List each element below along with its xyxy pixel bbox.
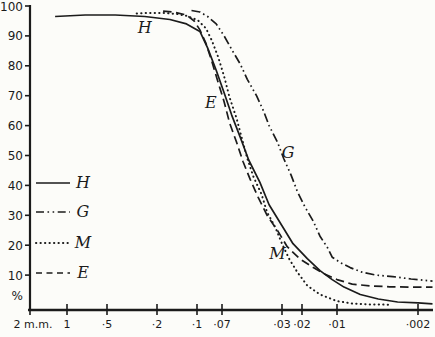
series-G-curve: [192, 11, 433, 282]
y-tick-label: 90: [8, 29, 23, 43]
x-tick-label: ·01: [328, 318, 346, 331]
y-axis-unit-label: %: [12, 289, 23, 303]
y-tick-label: 30: [8, 209, 23, 223]
curve-label-M: M: [268, 244, 286, 263]
chart-canvas: 100908070605040302010%2 m.m.1·5·2·1·07·0…: [0, 0, 435, 337]
legend-label-G: G: [77, 202, 90, 221]
x-tick-label: 2 m.m.: [14, 318, 53, 331]
x-tick-label: ·2: [152, 318, 163, 331]
grading-curve-figure: 100908070605040302010%2 m.m.1·5·2·1·07·0…: [0, 0, 435, 337]
x-tick-label: ·002: [406, 318, 431, 331]
x-tick-label: ·07: [213, 318, 231, 331]
y-tick-label: 60: [8, 119, 23, 133]
series-H-curve: [55, 15, 432, 304]
series-M-curve: [137, 13, 389, 305]
x-tick-label: 1: [64, 318, 71, 331]
curve-label-H: H: [137, 18, 153, 37]
y-tick-label: 10: [8, 269, 23, 283]
legend-label-E: E: [76, 263, 89, 282]
y-tick-label: 80: [8, 59, 23, 73]
curve-label-G: G: [282, 143, 295, 162]
x-tick-label: ·1: [192, 318, 203, 331]
legend-label-H: H: [75, 173, 91, 192]
y-tick-label: 50: [8, 149, 23, 163]
x-tick-label: ·03: [273, 318, 291, 331]
series-E-curve: [163, 11, 432, 287]
legend-label-M: M: [74, 233, 92, 252]
x-tick-label: ·5: [102, 318, 113, 331]
y-tick-label: 40: [8, 179, 23, 193]
y-tick-label: 70: [8, 89, 23, 103]
y-tick-label: 20: [8, 239, 23, 253]
x-tick-label: ·02: [293, 318, 311, 331]
curve-label-E: E: [204, 93, 217, 112]
y-tick-label: 100: [0, 0, 23, 14]
